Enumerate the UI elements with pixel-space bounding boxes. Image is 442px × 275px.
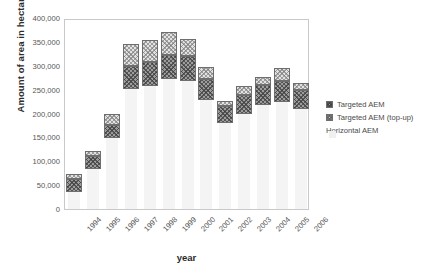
bar-segment-targeted-aem-topup: [85, 151, 101, 156]
x-tick-label: 2000: [198, 215, 216, 233]
bar-segment-targeted-aem-topup: [293, 83, 309, 89]
y-tick-label: 250,000: [14, 87, 60, 95]
bar-segment-targeted-aem: [293, 90, 309, 109]
bar-segment-targeted-aem: [161, 55, 177, 80]
plot-area: [64, 19, 309, 210]
bar-segment-targeted-aem-topup: [161, 32, 177, 54]
legend-item-label: Targeted AEM (top-up): [337, 113, 413, 122]
bar-group: [65, 20, 83, 209]
legend-swatch-icon: [326, 114, 333, 121]
bar-segment-targeted-aem: [255, 85, 271, 105]
legend-item-label: Targeted AEM: [337, 100, 385, 109]
y-tick-label: 100,000: [14, 158, 60, 166]
x-axis-tick-labels: 1994199519961997199819992000200120022003…: [64, 211, 309, 251]
bar-segment-targeted-aem-topup: [180, 39, 196, 57]
legend-item[interactable]: Targeted AEM (top-up): [326, 112, 438, 123]
bar-group: [84, 20, 102, 209]
bar-group: [254, 20, 272, 209]
bar-segment-targeted-aem: [123, 66, 139, 89]
x-axis-title: year: [64, 252, 309, 263]
bar-segment-targeted-aem: [236, 95, 252, 113]
bar-segment-targeted-aem: [198, 79, 214, 100]
bar-segment-targeted-aem: [66, 179, 82, 192]
x-tick-label: 2002: [236, 215, 254, 233]
y-tick-label: 350,000: [14, 39, 60, 47]
bar-segment-targeted-aem-topup: [198, 67, 214, 79]
x-tick-label: 1996: [123, 215, 141, 233]
bar-segment-targeted-aem-topup: [142, 40, 158, 63]
bar-segment-targeted-aem: [217, 106, 233, 122]
bar-group: [235, 20, 253, 209]
chart-container: Amount of area in hectares 050,000100,00…: [0, 0, 442, 275]
bar-segment-targeted-aem: [104, 125, 120, 138]
bar-group: [197, 20, 215, 209]
bar-segment-targeted-aem-topup: [255, 77, 271, 85]
y-tick-label: 150,000: [14, 134, 60, 142]
bar-segment-targeted-aem-topup: [217, 101, 233, 106]
bar-group: [292, 20, 310, 209]
bar-segment-targeted-aem-topup: [66, 174, 82, 179]
bar-segment-targeted-aem: [85, 156, 101, 169]
legend-swatch-icon: [326, 101, 333, 108]
legend-item[interactable]: Horizontal AEM: [326, 125, 438, 136]
bar-segment-targeted-aem-topup: [236, 86, 252, 95]
x-tick-label: 2006: [312, 215, 330, 233]
bar-group: [141, 20, 159, 209]
x-tick-label: 1995: [104, 215, 122, 233]
y-tick-label: 400,000: [14, 15, 60, 23]
bar-group: [122, 20, 140, 209]
y-axis-tick-labels: 050,000100,000150,000200,000250,000300,0…: [14, 0, 60, 275]
chart-legend: Targeted AEMTargeted AEM (top-up)Horizon…: [326, 99, 438, 138]
x-tick-label: 1998: [161, 215, 179, 233]
y-tick-label: 300,000: [14, 63, 60, 71]
bar-segment-targeted-aem: [274, 81, 290, 101]
legend-item[interactable]: Targeted AEM: [326, 99, 438, 110]
bar-segment-targeted-aem: [180, 56, 196, 80]
legend-swatch-icon: [329, 131, 336, 138]
x-tick-label: 1999: [180, 215, 198, 233]
bar-group: [273, 20, 291, 209]
x-tick-label: 2004: [274, 215, 292, 233]
bar-group: [216, 20, 234, 209]
x-tick-label: 1994: [85, 215, 103, 233]
bar-group: [179, 20, 197, 209]
x-tick-label: 1997: [142, 215, 160, 233]
bar-segment-targeted-aem-topup: [123, 44, 139, 65]
x-tick-label: 2005: [293, 215, 311, 233]
bar-segment-targeted-aem: [142, 62, 158, 85]
x-tick-label: 2001: [217, 215, 235, 233]
y-tick-label: 200,000: [14, 111, 60, 119]
bar-segment-targeted-aem-topup: [104, 114, 120, 125]
y-tick-label: 50,000: [14, 182, 60, 190]
bar-segment-targeted-aem-topup: [274, 68, 290, 81]
y-tick-label: 0: [14, 206, 60, 214]
x-tick-label: 2003: [255, 215, 273, 233]
bar-group: [160, 20, 178, 209]
bar-group: [103, 20, 121, 209]
